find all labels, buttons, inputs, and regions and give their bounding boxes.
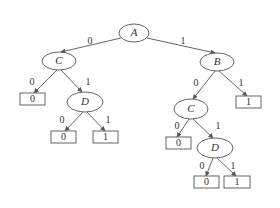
- edge-label: 0: [60, 114, 65, 125]
- edge-D2-L7: 1: [217, 158, 236, 176]
- edge-arrow-line: [34, 70, 57, 93]
- decision-tree-diagram: 010101010101 ACB0D1C010D01: [0, 0, 280, 208]
- edge-label: 1: [231, 160, 236, 171]
- leaf-value: 0: [176, 137, 181, 148]
- edge-D2-L6: 0: [200, 158, 214, 176]
- edge-label: 0: [30, 76, 35, 87]
- leaf-node-L4: 1: [93, 131, 118, 143]
- variable-label: A: [130, 26, 138, 38]
- leaf-node-L7: 1: [224, 176, 250, 188]
- edge-arrow-line: [61, 70, 82, 92]
- variable-label: C: [187, 102, 195, 114]
- edge-B-C2: 0: [193, 71, 215, 99]
- leaf-value: 1: [246, 96, 251, 107]
- leaf-node-L1: 0: [20, 93, 45, 105]
- edge-A-B: 1: [147, 35, 215, 53]
- edge-B-L2: 1: [219, 71, 247, 96]
- edge-arrow-line: [193, 119, 213, 138]
- edge-arrow-line: [87, 112, 105, 131]
- edge-C2-L5: 0: [175, 119, 190, 137]
- edge-label: 1: [239, 77, 244, 88]
- edge-label: 0: [88, 35, 93, 46]
- edge-D1-L4: 1: [87, 112, 111, 131]
- variable-label: D: [210, 141, 219, 153]
- leaf-value: 0: [61, 131, 66, 142]
- leaf-value: 0: [204, 176, 209, 187]
- edge-A-C1: 0: [61, 35, 121, 52]
- decision-node-D2: D: [197, 138, 233, 158]
- edge-arrow-line: [206, 158, 213, 176]
- leaf-node-L2: 1: [236, 96, 261, 108]
- edge-label: 0: [200, 160, 205, 171]
- edge-arrow-line: [65, 112, 83, 131]
- leaf-value: 0: [30, 93, 35, 104]
- edge-C2-D2: 1: [193, 119, 221, 138]
- edge-D1-L3: 0: [60, 112, 84, 131]
- leaf-node-L6: 0: [194, 176, 219, 188]
- variable-label: B: [214, 55, 221, 67]
- edge-label: 1: [181, 35, 186, 46]
- leaf-value: 1: [235, 176, 240, 187]
- decision-node-C2: C: [174, 99, 208, 119]
- leaf-node-L3: 0: [51, 131, 76, 143]
- variable-label: D: [80, 95, 89, 107]
- edge-label: 1: [86, 76, 91, 87]
- edge-C1-D1: 1: [61, 70, 91, 92]
- edge-label: 0: [194, 77, 199, 88]
- edge-label: 1: [216, 120, 221, 131]
- edge-label: 1: [106, 114, 111, 125]
- decision-node-D1: D: [67, 92, 103, 112]
- leaf-value: 1: [103, 131, 108, 142]
- decision-node-C1: C: [42, 52, 76, 70]
- nodes-layer: ACB0D1C010D01: [20, 24, 261, 188]
- leaf-node-L5: 0: [166, 137, 191, 149]
- variable-label: C: [55, 54, 63, 66]
- edge-label: 0: [175, 120, 180, 131]
- decision-tree-canvas: 010101010101 ACB0D1C010D01: [0, 0, 280, 208]
- decision-node-A: A: [119, 24, 149, 42]
- edge-C1-L1: 0: [30, 70, 58, 93]
- decision-node-B: B: [200, 53, 234, 71]
